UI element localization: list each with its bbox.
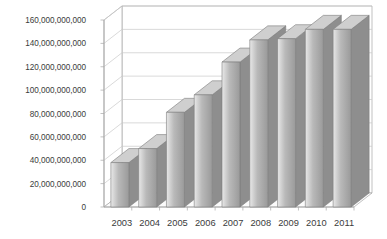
plot-area: [0, 0, 387, 239]
x-axis-tick-label: 2008: [250, 218, 271, 228]
x-axis-tick-label: 2011: [334, 218, 354, 228]
bar-front-face: [166, 112, 184, 207]
bar-front-face: [194, 95, 212, 207]
bar-chart: 020,000,000,00040,000,000,00060,000,000,…: [0, 0, 387, 239]
bar-front-face: [222, 62, 240, 207]
bar-front-face: [250, 40, 268, 207]
x-axis-tick-label: 2006: [195, 218, 216, 228]
bar-front-face: [333, 29, 351, 207]
x-axis-tick-label: 2009: [278, 218, 299, 228]
x-axis-tick-label: 2007: [223, 218, 244, 228]
bar-front-face: [111, 163, 129, 207]
x-axis-labels: 200320042005200620072008200920102011: [0, 218, 387, 236]
bar-front-face: [278, 39, 296, 207]
bar-side-face: [351, 15, 369, 207]
x-axis-tick-label: 2003: [112, 218, 133, 228]
x-axis-tick-label: 2005: [167, 218, 188, 228]
x-axis-tick-label: 2004: [139, 218, 160, 228]
bar-front-face: [305, 29, 323, 207]
chart-canvas: [0, 0, 387, 239]
x-axis-tick-label: 2010: [306, 218, 327, 228]
bar-front-face: [139, 149, 157, 207]
